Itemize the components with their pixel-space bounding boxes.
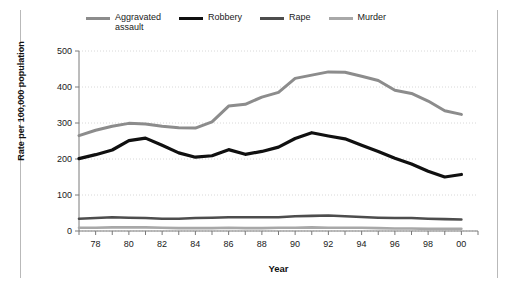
- series-line-murder: [79, 227, 461, 228]
- x-tick-label: 00: [456, 239, 466, 249]
- x-tick-label: 86: [224, 239, 234, 249]
- x-tick-label: 80: [124, 239, 134, 249]
- x-tick-label: 98: [423, 239, 433, 249]
- data-series-layer: [79, 72, 461, 229]
- x-axis-label: Year: [79, 263, 478, 274]
- y-tick-label: 100: [57, 190, 72, 200]
- x-tick-label: 84: [190, 239, 200, 249]
- axis-ticks: [75, 51, 478, 235]
- y-axis-label: Rate per 100,000 population: [16, 36, 26, 166]
- y-tick-label: 0: [67, 226, 72, 236]
- y-tick-label: 400: [57, 82, 72, 92]
- x-tick-label: 82: [157, 239, 167, 249]
- x-tick-label: 96: [390, 239, 400, 249]
- x-tick-label: 78: [91, 239, 101, 249]
- series-line-rape: [79, 216, 461, 220]
- chart-svg: 0100200300400500788082848688909294969800: [0, 0, 518, 289]
- x-tick-label: 92: [323, 239, 333, 249]
- plot-area-wrapper: 0100200300400500788082848688909294969800…: [0, 0, 518, 289]
- y-tick-label: 500: [57, 46, 72, 56]
- series-line-aggravated-assault: [79, 72, 461, 136]
- x-tick-label: 88: [257, 239, 267, 249]
- x-tick-label: 94: [357, 239, 367, 249]
- gridlines: [79, 51, 478, 231]
- x-tick-label: 90: [290, 239, 300, 249]
- series-line-robbery: [79, 133, 461, 177]
- y-tick-label: 200: [57, 154, 72, 164]
- y-tick-label: 300: [57, 118, 72, 128]
- axis-lines: [79, 51, 478, 231]
- crime-rate-line-chart: Aggravated assaultRobberyRapeMurder 0100…: [0, 0, 518, 289]
